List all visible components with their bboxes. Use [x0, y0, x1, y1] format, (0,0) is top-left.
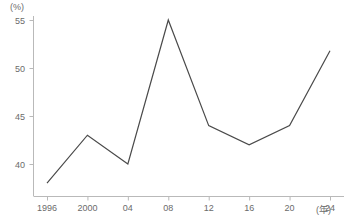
x-axis-tick-label: 1996 [37, 203, 57, 213]
y-axis-tick-label: 50 [15, 64, 25, 74]
y-axis-tick-label: 45 [15, 112, 25, 122]
x-axis-tick-label: 08 [163, 203, 173, 213]
chart-canvas: 40455055 19962000040812162024 [0, 0, 351, 222]
x-axis-tick-label: 04 [123, 203, 133, 213]
line-chart: (%) (年) 40455055 19962000040812162024 [0, 0, 351, 222]
x-axis-tick-label: 16 [244, 203, 254, 213]
x-axis-tick-label: 12 [204, 203, 214, 213]
y-axis-tick-group: 40455055 [15, 16, 34, 170]
y-axis-tick-label: 55 [15, 16, 25, 26]
x-axis-tick-label: 20 [285, 203, 295, 213]
y-axis-tick-label: 40 [15, 160, 25, 170]
x-axis-tick-label: 2000 [77, 203, 97, 213]
data-series-line [47, 20, 330, 183]
x-axis-tick-label: 24 [325, 203, 335, 213]
x-axis-tick-group: 19962000040812162024 [37, 197, 335, 214]
